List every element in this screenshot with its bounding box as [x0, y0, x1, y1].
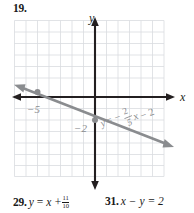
answer-29-rhs: x + — [46, 196, 62, 208]
answer-29-lhs: y — [29, 196, 34, 208]
answer-29-fraction-denominator: 10 — [62, 202, 69, 210]
x-intercept-point — [35, 89, 41, 95]
exercise-number: 19. — [13, 2, 27, 14]
answer-29-equals: = — [37, 196, 44, 208]
equation-slope-denominator: 5 — [126, 117, 134, 128]
y-axis-label: y — [88, 15, 95, 25]
y-intercept-point — [92, 117, 98, 123]
answer-29: 29.y = x +1110 — [13, 195, 69, 209]
coordinate-graph: y x −5 −2 y = − 2 5 x − 2 — [0, 15, 194, 193]
answer-31-equation: x − y = 2 — [121, 195, 164, 207]
equation-slope-numerator: 2 — [121, 106, 129, 117]
x-axis-label: x — [179, 90, 186, 104]
y-axis-arrow-down — [91, 181, 99, 190]
answer-31-number: 31. — [105, 195, 119, 207]
answer-29-fraction: 1110 — [62, 195, 69, 209]
y-intercept-label: −2 — [74, 122, 87, 134]
x-axis-arrow-left — [12, 93, 21, 101]
answer-29-fraction-numerator: 11 — [62, 195, 69, 202]
grid-lines — [15, 21, 165, 177]
equation-sign: − — [113, 111, 123, 123]
graph-svg: y x −5 −2 y = − 2 5 x − 2 — [0, 15, 194, 193]
answer-29-number: 29. — [13, 196, 27, 208]
x-axis-arrow-right — [166, 93, 175, 101]
x-intercept-label: −5 — [27, 103, 40, 115]
answers-row: 29.y = x +1110 31.x − y = 2 — [0, 194, 194, 213]
answer-31: 31.x − y = 2 — [105, 195, 164, 207]
line-arrow-left — [14, 84, 26, 92]
